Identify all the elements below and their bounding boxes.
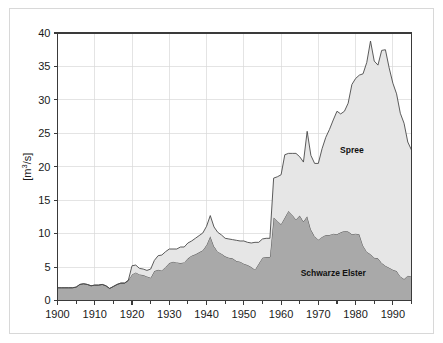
y-tick-label: 0 xyxy=(44,294,50,306)
y-tick-label: 30 xyxy=(38,94,50,106)
x-tick-label: 1910 xyxy=(83,308,107,320)
x-tick-label: 1930 xyxy=(157,308,181,320)
x-tick-label: 1900 xyxy=(45,308,69,320)
x-tick-label: 1980 xyxy=(343,308,367,320)
x-tick-label: 1950 xyxy=(232,308,256,320)
x-tick-label: 1940 xyxy=(194,308,218,320)
svg-text:[m3/s]: [m3/s] xyxy=(20,153,34,181)
y-tick-label: 10 xyxy=(38,227,50,239)
y-axis-title: [m3/s] xyxy=(20,153,34,181)
y-tick-label: 35 xyxy=(38,60,50,72)
y-tick-label: 20 xyxy=(38,161,50,173)
y-tick-label: 15 xyxy=(38,194,50,206)
y-tick-label: 40 xyxy=(38,27,50,39)
axis-titles-group: [m3/s] xyxy=(20,153,34,181)
schwarze-elster-label: Schwarze Elster xyxy=(301,268,367,278)
x-tick-label: 1960 xyxy=(269,308,293,320)
area-chart-canvas: 0510152025303540190019101920193019401950… xyxy=(0,0,443,343)
series-areas-group xyxy=(58,41,412,300)
x-tick-label: 1920 xyxy=(120,308,144,320)
spree-label: Spree xyxy=(340,145,364,155)
y-tick-label: 5 xyxy=(44,261,50,273)
chart-figure: 0510152025303540190019101920193019401950… xyxy=(0,0,443,343)
x-tick-label: 1970 xyxy=(306,308,330,320)
y-tick-label: 25 xyxy=(38,127,50,139)
x-tick-label: 1990 xyxy=(381,308,405,320)
